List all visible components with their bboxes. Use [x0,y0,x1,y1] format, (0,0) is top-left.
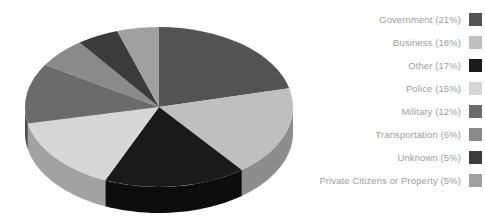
legend-item-label: Other (17%) [408,60,469,71]
legend-color-swatch [469,13,482,26]
legend-color-swatch [469,174,482,187]
legend-item[interactable]: Unknown (5%) [312,146,482,169]
legend-color-swatch [469,59,482,72]
legend-item-label: Private Citizens or Property (5%) [319,175,469,186]
legend-item-label: Police (15%) [406,83,469,94]
pie-chart-plot-area: Government (21%)Business (18%)Other (17%… [0,0,310,218]
legend-item[interactable]: Police (15%) [312,77,482,100]
legend-item-label: Unknown (5%) [397,152,469,163]
legend-item-label: Business (18%) [393,37,469,48]
legend-item-label: Military (12%) [402,106,469,117]
legend-item[interactable]: Private Citizens or Property (5%) [312,169,482,192]
legend-item-label: Government (21%) [379,14,469,25]
legend-item[interactable]: Military (12%) [312,100,482,123]
legend-color-swatch [469,82,482,95]
legend-item[interactable]: Government (21%) [312,8,482,31]
legend-item-label: Transportation (6%) [376,129,470,140]
legend-item[interactable]: Other (17%) [312,54,482,77]
legend-color-swatch [469,36,482,49]
legend-item[interactable]: Business (18%) [312,31,482,54]
legend-item[interactable]: Transportation (6%) [312,123,482,146]
legend-color-swatch [469,151,482,164]
pie-chart-figure: Government (21%)Business (18%)Other (17%… [0,0,485,218]
legend-color-swatch [469,105,482,118]
pie-chart-svg: Government (21%)Business (18%)Other (17%… [0,0,310,218]
legend-color-swatch [469,128,482,141]
chart-legend: Government (21%) Business (18%) Other (1… [312,8,482,210]
pie-slices: Government (21%)Business (18%)Other (17%… [25,27,293,187]
